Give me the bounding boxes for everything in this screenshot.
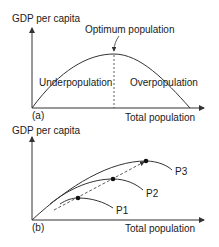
- p1-optimum-dot: [76, 196, 81, 201]
- y-axis-label-a: GDP per capita: [12, 13, 80, 24]
- curve-label-p3: P3: [175, 166, 187, 177]
- curve-label-p2: P2: [146, 188, 158, 199]
- underpopulation-label: Underpopulation: [39, 77, 112, 88]
- diagram-canvas: [0, 0, 219, 247]
- y-axis-label-b: GDP per capita: [12, 125, 80, 136]
- overpopulation-label: Overpopulation: [130, 77, 198, 88]
- optimum-arrow-icon: [114, 36, 119, 51]
- x-axis-label-b: Total population: [125, 223, 195, 234]
- panel-a-tag: (a): [32, 110, 44, 121]
- optimum-label: Optimum population: [85, 24, 175, 35]
- x-axis-label-a: Total population: [125, 112, 195, 123]
- growth-path-dashed: [54, 162, 144, 210]
- panel-b-tag: (b): [32, 222, 44, 233]
- curve-label-p1: P1: [116, 205, 128, 216]
- p3-optimum-dot: [144, 159, 149, 164]
- panel-a: [32, 28, 204, 108]
- p2-optimum-dot: [111, 177, 116, 182]
